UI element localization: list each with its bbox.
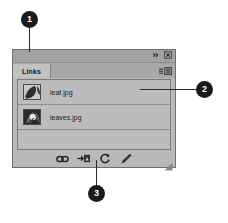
link-file-name: leaf.jpg (50, 89, 73, 96)
leaves-thumbnail (23, 109, 41, 125)
callout-leader-line (29, 26, 30, 52)
list-item[interactable]: leaves.jpg (18, 105, 170, 130)
tab-links-label: Links (22, 68, 41, 75)
callout-leader-line (96, 160, 97, 186)
callout-badge-3: 3 (88, 185, 105, 202)
panel-flyout-menu-icon[interactable] (158, 66, 172, 76)
callout-badge-1: 1 (21, 11, 38, 28)
callout-badge-3-label: 3 (94, 189, 99, 198)
link-file-name: leaves.jpg (50, 114, 82, 121)
leaf-thumbnail (23, 84, 41, 100)
go-to-link-arrow-icon[interactable] (77, 153, 90, 165)
panel-title-bar-controls (152, 51, 172, 59)
links-list-empty-space (18, 130, 170, 150)
update-link-refresh-icon[interactable] (98, 153, 111, 165)
screenshot-stage: Links (0, 0, 228, 223)
tab-links[interactable]: Links (13, 64, 51, 78)
edit-original-pencil-icon[interactable] (119, 153, 132, 165)
close-icon[interactable] (164, 51, 172, 59)
callout-badge-2: 2 (196, 81, 213, 98)
panel-bottom-toolbar (13, 150, 175, 167)
callout-badge-2-label: 2 (202, 85, 207, 94)
callout-leader-line (140, 89, 197, 90)
callout-badge-1-label: 1 (27, 15, 32, 24)
list-item[interactable]: leaf.jpg (18, 80, 170, 105)
panel-title-bar[interactable] (13, 50, 175, 63)
double-chevron-collapse-icon[interactable] (152, 51, 160, 59)
relink-chain-icon[interactable] (56, 153, 69, 165)
panel-tab-strip: Links (13, 63, 175, 78)
links-panel: Links (12, 49, 176, 168)
resize-grip-icon[interactable] (164, 157, 173, 166)
